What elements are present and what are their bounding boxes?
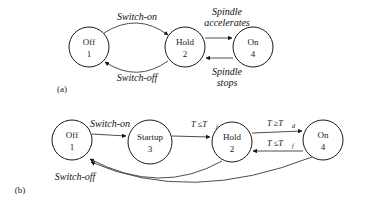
edge-label-switch-off-a: Switch-off: [117, 72, 159, 83]
state-number-on-b: 4: [321, 142, 326, 152]
edge-label-switch-on-b: Switch-on: [90, 118, 130, 129]
state-node-hold-a[interactable]: Hold 2: [165, 27, 205, 67]
edge-label-spindle-stops-line2: stops: [217, 77, 238, 88]
state-machine-figure: Off 1 Hold 2 On 4 Switch-on Switch-off S…: [0, 0, 365, 202]
state-name-hold-b: Hold: [223, 132, 242, 142]
state-number-hold-a: 2: [183, 49, 188, 59]
state-number-hold-b: 2: [230, 144, 235, 154]
state-node-off-a[interactable]: Off 1: [69, 27, 109, 67]
state-node-on-b[interactable]: On 4: [303, 120, 343, 160]
cond-base-hold-to-on: T ≥T: [267, 118, 284, 128]
edge-label-switch-on-a: Switch-on: [117, 11, 157, 22]
state-node-off-b[interactable]: Off 1: [52, 120, 92, 160]
state-circle-on-a: [233, 27, 273, 67]
state-circle-off-a: [69, 27, 109, 67]
cond-base-on-to-hold: T ≤T: [267, 138, 284, 148]
subfigure-caption-b: (b): [15, 185, 26, 195]
state-name-on-b: On: [318, 130, 329, 140]
state-name-startup-b: Startup: [137, 132, 163, 142]
cond-base-startup-to-hold: T ≤T: [191, 119, 208, 129]
state-circle-hold-b: [212, 122, 252, 162]
state-circle-on-b: [303, 120, 343, 160]
edge-label-spindle-accelerates-line2: accelerates: [204, 17, 250, 28]
state-node-startup-b[interactable]: Startup 3: [128, 120, 172, 164]
subfigure-caption-a: (a): [57, 84, 67, 94]
state-node-on-a[interactable]: On 4: [233, 27, 273, 67]
state-name-on-a: On: [248, 37, 259, 47]
state-number-off-b: 1: [70, 142, 75, 152]
edge-label-spindle-stops-line1: Spindle: [212, 66, 243, 77]
state-name-hold-a: Hold: [176, 37, 195, 47]
edge-label-switch-off-b: Switch-off: [55, 171, 97, 182]
state-number-on-a: 4: [251, 49, 256, 59]
state-circle-off-b: [52, 120, 92, 160]
state-number-off-a: 1: [87, 49, 92, 59]
state-name-off-a: Off: [83, 37, 95, 47]
state-circle-hold-a: [165, 27, 205, 67]
state-number-startup-b: 3: [148, 144, 153, 154]
state-name-off-b: Off: [66, 130, 78, 140]
state-circle-startup-b: [128, 120, 172, 164]
state-node-hold-b[interactable]: Hold 2: [212, 122, 252, 162]
edge-label-spindle-accelerates-line1: Spindle: [212, 6, 243, 17]
